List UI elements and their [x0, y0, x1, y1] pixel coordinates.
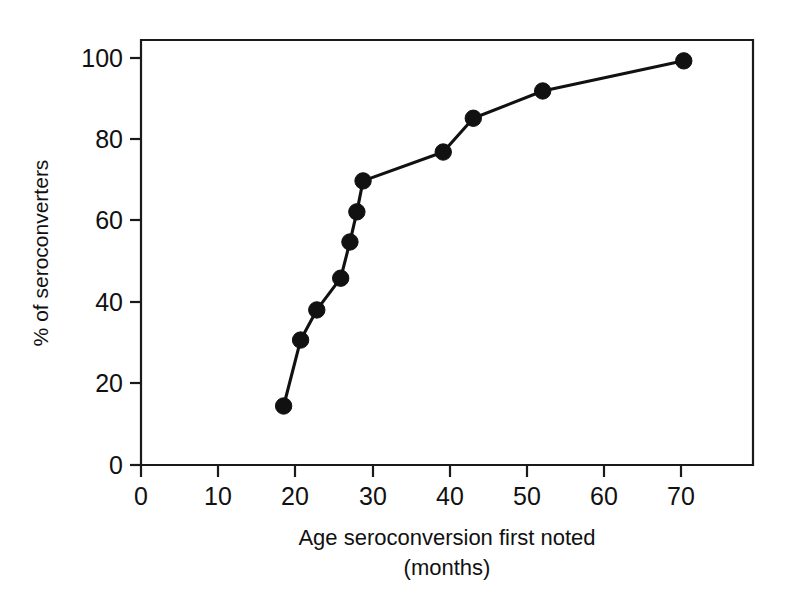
- data-point: [292, 332, 308, 348]
- x-axis-title-line2: (months): [404, 555, 491, 580]
- y-tick-marks: [130, 58, 141, 465]
- data-point: [332, 270, 348, 286]
- x-tick-label-40: 40: [436, 482, 464, 510]
- y-tick-label-80: 80: [95, 125, 123, 153]
- y-tick-labels: 0 20 40 60 80 100: [81, 44, 123, 479]
- data-point: [676, 53, 692, 69]
- y-tick-label-20: 20: [95, 369, 123, 397]
- figure-container: 0 20 40 60 80 100 0 10 20 30 40 50 60: [0, 0, 791, 605]
- x-tick-label-20: 20: [281, 482, 309, 510]
- series-line: [284, 61, 684, 406]
- x-tick-marks: [141, 465, 681, 477]
- data-point: [465, 110, 481, 126]
- data-series-group: [275, 53, 692, 415]
- x-tick-label-0: 0: [134, 482, 148, 510]
- axes-frame: [141, 40, 753, 465]
- x-tick-label-10: 10: [204, 482, 232, 510]
- data-point: [534, 83, 550, 99]
- data-point: [349, 204, 365, 220]
- x-axis-title-line1: Age seroconversion first noted: [298, 525, 595, 550]
- y-tick-label-40: 40: [95, 288, 123, 316]
- x-tick-label-50: 50: [513, 482, 541, 510]
- x-tick-label-70: 70: [667, 482, 695, 510]
- x-tick-labels: 0 10 20 30 40 50 60 70: [134, 482, 695, 510]
- y-tick-label-60: 60: [95, 206, 123, 234]
- y-tick-label-0: 0: [109, 451, 123, 479]
- series-markers: [275, 53, 692, 415]
- data-point: [309, 302, 325, 318]
- data-point: [355, 173, 371, 189]
- line-chart: 0 20 40 60 80 100 0 10 20 30 40 50 60: [0, 0, 791, 605]
- y-axis-title: % of seroconverters: [29, 160, 52, 347]
- data-point: [275, 398, 291, 414]
- data-point: [342, 234, 358, 250]
- x-tick-label-60: 60: [590, 482, 618, 510]
- y-tick-label-100: 100: [81, 44, 123, 72]
- x-tick-label-30: 30: [359, 482, 387, 510]
- plot-frame: [141, 40, 753, 465]
- data-point: [435, 144, 451, 160]
